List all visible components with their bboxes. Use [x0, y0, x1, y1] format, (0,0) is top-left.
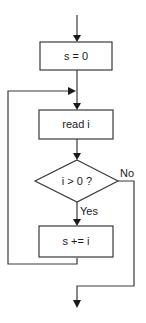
- loop-arrowhead-icon: [68, 87, 76, 95]
- flowchart: s = 0 read i i > 0 ? Yes s += i No: [0, 0, 146, 323]
- edge-no-label: No: [120, 167, 134, 179]
- entry-arrowhead-icon: [73, 35, 81, 42]
- yes-arrowhead-icon: [73, 219, 81, 226]
- node-read: read i: [39, 110, 113, 139]
- node-accum: s += i: [39, 226, 113, 257]
- node-read-label: read i: [62, 118, 90, 130]
- node-check: i > 0 ?: [35, 160, 118, 202]
- node-check-label: i > 0 ?: [62, 175, 92, 187]
- node-init-label: s = 0: [64, 50, 88, 62]
- read-arrowhead-icon: [73, 103, 81, 110]
- exit-arrowhead-icon: [73, 300, 81, 308]
- node-accum-label: s += i: [63, 235, 90, 247]
- node-init: s = 0: [40, 42, 112, 70]
- edge-yes-label: Yes: [80, 205, 98, 217]
- check-arrowhead-icon: [73, 153, 81, 160]
